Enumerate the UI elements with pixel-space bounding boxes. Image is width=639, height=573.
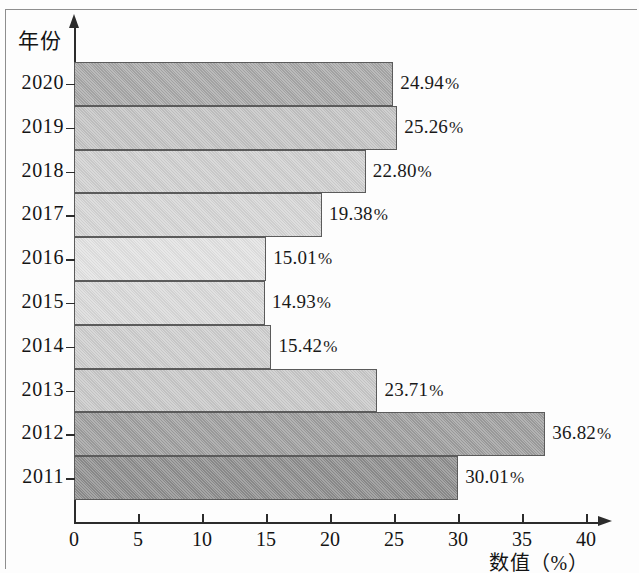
bar-value-label-2015: 14.93%: [272, 291, 331, 313]
chart-figure: 年份 数值（%） 24.94%25.26%22.80%19.38%15.01%1…: [0, 0, 639, 573]
x-axis-label-30: 30: [436, 528, 480, 551]
x-axis-label-0: 0: [52, 528, 96, 551]
bar-value-label-2011: 30.01%: [465, 466, 524, 488]
y-tick-2015: [66, 303, 75, 305]
x-axis-label-35: 35: [500, 528, 544, 551]
bar-2019: [74, 106, 397, 150]
x-axis-label-15: 15: [244, 528, 288, 551]
x-tick-10: [202, 514, 204, 522]
y-axis-label-2017: 2017: [2, 202, 64, 225]
bar-value-label-2012: 36.82%: [552, 422, 611, 444]
bar-2012: [74, 412, 545, 456]
x-tick-40: [586, 514, 588, 522]
x-axis-label-20: 20: [308, 528, 352, 551]
y-axis-label-2016: 2016: [2, 246, 64, 269]
x-axis-label-40: 40: [564, 528, 608, 551]
y-tick-2017: [66, 215, 75, 217]
y-tick-2020: [66, 84, 75, 86]
y-tick-2012: [66, 434, 75, 436]
y-axis-title: 年份: [18, 24, 62, 54]
bar-2018: [74, 150, 366, 194]
y-tick-2014: [66, 347, 75, 349]
x-axis-label-10: 10: [180, 528, 224, 551]
x-axis-line: [74, 522, 602, 524]
y-tick-2013: [66, 391, 75, 393]
bar-value-label-2013: 23.71%: [384, 379, 443, 401]
x-tick-30: [458, 514, 460, 522]
y-axis-label-2018: 2018: [2, 159, 64, 182]
bar-2016: [74, 237, 266, 281]
bar-value-label-2020: 24.94%: [400, 72, 459, 94]
y-axis-label-2011: 2011: [2, 465, 64, 488]
y-axis-label-2020: 2020: [2, 71, 64, 94]
bar-2015: [74, 281, 265, 325]
bar-2013: [74, 369, 377, 413]
bar-value-label-2019: 25.26%: [404, 116, 463, 138]
x-axis-label-5: 5: [116, 528, 160, 551]
plot-area: 年份 数值（%） 24.94%25.26%22.80%19.38%15.01%1…: [0, 0, 639, 573]
y-axis-label-2019: 2019: [2, 115, 64, 138]
bar-value-label-2018: 22.80%: [373, 160, 432, 182]
x-axis-arrow-icon: [598, 516, 612, 526]
y-tick-2019: [66, 128, 75, 130]
y-axis-label-2012: 2012: [2, 421, 64, 444]
x-axis-label-25: 25: [372, 528, 416, 551]
y-tick-2011: [66, 478, 75, 480]
bar-2011: [74, 456, 458, 500]
y-axis-label-2015: 2015: [2, 290, 64, 313]
x-tick-25: [394, 514, 396, 522]
y-tick-2016: [66, 259, 75, 261]
bar-2017: [74, 193, 322, 237]
y-axis-arrow-icon: [69, 14, 79, 28]
y-axis-label-2013: 2013: [2, 378, 64, 401]
y-axis-label-2014: 2014: [2, 334, 64, 357]
bar-2020: [74, 62, 393, 106]
x-tick-15: [266, 514, 268, 522]
x-tick-20: [330, 514, 332, 522]
bar-value-label-2017: 19.38%: [329, 203, 388, 225]
bar-value-label-2016: 15.01%: [273, 247, 332, 269]
bar-value-label-2014: 15.42%: [278, 335, 337, 357]
x-tick-35: [522, 514, 524, 522]
bar-2014: [74, 325, 271, 369]
x-tick-5: [138, 514, 140, 522]
y-tick-2018: [66, 172, 75, 174]
